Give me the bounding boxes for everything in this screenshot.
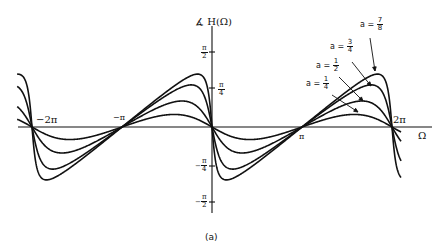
arrow-line [332, 95, 358, 112]
ytick-label-neg-pi-4: −π4 [195, 158, 207, 173]
ytick-label-pi-2: π2 [201, 45, 208, 60]
xtick-neg-2pi: −2π [36, 115, 57, 125]
legend-a-1-4: a = 14 [306, 76, 329, 91]
ytick-label-neg-pi-2: −π2 [195, 194, 207, 209]
figure-caption: (a) [205, 233, 218, 242]
arrowhead-icon [373, 67, 377, 71]
legend-a-7-8: a = 78 [360, 17, 383, 32]
arrowhead-icon [354, 108, 358, 112]
x-axis-label: Ω [418, 131, 426, 141]
y-axis-label: ∡ H(Ω) [195, 17, 232, 27]
ytick-label-pi-4: π4 [218, 82, 225, 97]
arrow-line [352, 62, 371, 86]
angle-icon: ∡ [195, 16, 204, 27]
phase-plot [0, 0, 445, 251]
xtick-pi: π [299, 133, 304, 141]
legend-a-1-2: a = 12 [316, 58, 339, 73]
xtick-neg-pi: −π [113, 114, 125, 122]
xtick-2pi: 2π [393, 115, 406, 125]
legend-a-3-4: a = 34 [330, 39, 353, 54]
y-label-text: H(Ω) [207, 16, 232, 27]
axes [18, 26, 432, 213]
arrow-line [370, 38, 375, 71]
